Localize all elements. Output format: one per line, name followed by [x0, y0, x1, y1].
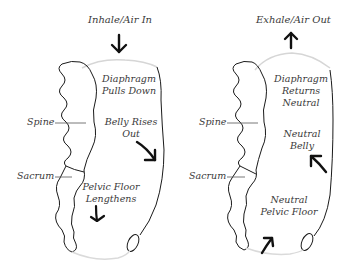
arrow-down-right-icon — [137, 142, 155, 160]
arrow-up-icon — [285, 33, 297, 48]
belly-label-line2: Belly — [272, 140, 332, 152]
diaphragm-label-line2: Pulls Down — [96, 85, 162, 97]
pelvic-floor-label-line1: Pelvic Floor — [80, 181, 142, 193]
diaphragm-label: Diaphragm Returns Neutral — [268, 73, 334, 109]
inhale-title: Inhale/Air In — [88, 14, 152, 26]
spine-outline — [228, 61, 267, 250]
pubic-bone — [125, 233, 142, 254]
sacrum-divider — [66, 166, 84, 172]
spine-label: Spine — [27, 116, 54, 128]
diaphragm-label-line2: Returns — [268, 85, 334, 97]
pelvic-floor-label-line2: Lengthens — [80, 193, 142, 205]
spine-outline — [56, 61, 97, 252]
diaphragm-label-line1: Diaphragm — [96, 73, 162, 85]
sacrum-divider — [240, 166, 256, 174]
arrow-up-left-icon — [311, 156, 326, 172]
diaphragm-label-line1: Diaphragm — [268, 73, 334, 85]
belly-label-line1: Belly Rises — [98, 116, 164, 128]
spine-label: Spine — [199, 116, 226, 128]
sacrum-label: Sacrum — [17, 170, 54, 182]
belly-label-line2: Out — [98, 128, 164, 140]
pubic-bone — [299, 232, 316, 253]
diaphragm-label-line3: Neutral — [268, 97, 334, 109]
arrow-down-small-icon — [91, 206, 104, 221]
pelvic-floor-curve — [246, 248, 303, 254]
pelvic-floor-label-line1: Neutral — [256, 194, 322, 206]
pelvic-floor-label-line2: Pelvic Floor — [256, 206, 322, 218]
pelvic-floor-label: Pelvic Floor Lengthens — [80, 181, 142, 205]
arrow-up-right-icon — [262, 238, 273, 253]
belly-label-line1: Neutral — [272, 128, 332, 140]
inhale-panel-drawing — [55, 35, 164, 259]
diaphragm-label: Diaphragm Pulls Down — [96, 73, 162, 97]
arrow-down-icon — [112, 35, 126, 52]
belly-label: Belly Rises Out — [98, 116, 164, 140]
diaphragm-dome — [82, 60, 157, 68]
pelvic-floor-label: Neutral Pelvic Floor — [256, 194, 322, 218]
belly-label: Neutral Belly — [272, 128, 332, 152]
diaphragm-dome — [255, 53, 330, 70]
exhale-title: Exhale/Air Out — [256, 14, 331, 26]
pelvic-floor-curve — [72, 250, 130, 259]
sacrum-label: Sacrum — [189, 170, 226, 182]
